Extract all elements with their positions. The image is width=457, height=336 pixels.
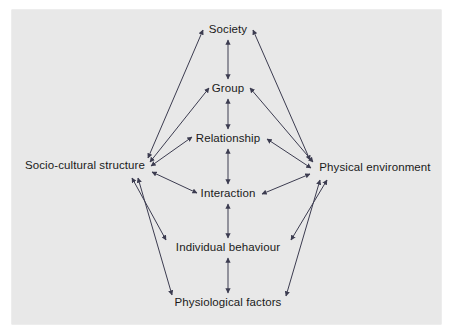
edge-socio-interaction <box>152 172 197 193</box>
node-label-physiology: Physiological factors <box>175 297 282 309</box>
node-label-society: Society <box>209 24 247 36</box>
node-label-group: Group <box>212 83 244 95</box>
node-label-physical: Physical environment <box>319 162 430 174</box>
edge-physical-group <box>250 88 313 162</box>
node-label-relationship: Relationship <box>196 133 261 145</box>
node-label-individual: Individual behaviour <box>176 242 280 254</box>
node-label-interaction: Interaction <box>201 188 256 200</box>
edge-physical-interaction <box>262 174 310 194</box>
edge-physical-society <box>253 30 310 160</box>
edge-physical-individual <box>291 180 327 240</box>
node-label-socio: Socio-cultural structure <box>25 160 145 172</box>
edge-layer <box>132 30 327 296</box>
edge-socio-society <box>148 30 203 158</box>
edge-socio-individual <box>132 178 166 240</box>
edge-socio-group <box>150 88 209 162</box>
diagram-canvas: SocietyGroupRelationshipSocio-cultural s… <box>0 0 457 336</box>
edge-physical-physiology <box>286 180 320 296</box>
edge-socio-relationship <box>151 137 192 166</box>
edge-socio-physiology <box>138 178 172 295</box>
edge-physical-relationship <box>267 139 311 168</box>
